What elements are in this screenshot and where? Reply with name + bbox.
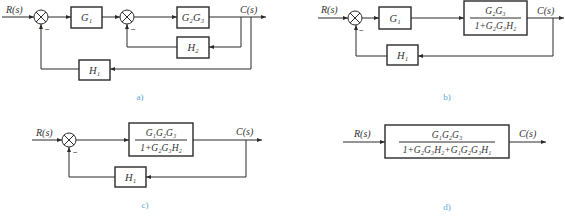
input-label-r: R(s) [35,127,53,139]
block-diagram-reduction-figure: R(s) − G₁ − G₂G₃ C(s) H₂ [0,0,565,220]
caption-b: b) [443,92,451,102]
input-label-r: R(s) [320,4,338,16]
block-g1-label: G₁ [81,12,92,23]
block-h1: H₁ [79,60,110,80]
block-g1: G₁ [379,7,411,29]
block-h1-label: H₁ [396,50,408,61]
block-g2g3-label: G₂G₃ [182,12,205,23]
output-label-c: C(s) [236,126,254,138]
caption-c: c) [142,200,149,210]
block-g1: G₁ [71,7,102,28]
block-inner-loop: G₂G₃ 1+G₂G₃H₂ [464,1,527,35]
block-denominator: 1+G₂G₃H₂ [475,21,517,31]
summing-junction-2 [120,10,134,24]
block-closed-loop-tf: G₁G₂G₃ 1+G₂G₃H₂+G₁G₂G₃H₁ [385,125,509,158]
input-label-r: R(s) [353,128,371,140]
block-h1-label: H₁ [124,172,136,183]
output-label-c: C(s) [519,128,537,140]
summing-junction [62,133,76,147]
diagram-c: R(s) − G₁G₂G₃ 1+G₂G₃H₂ C(s) H₁ c) [32,123,262,210]
feedback-path-h2-in [209,17,241,47]
block-h2-label: H₂ [186,42,199,53]
minus-sign: − [359,26,364,35]
diagram-b: R(s) − G₁ G₂G₃ 1+G₂G₃H₂ C(s) H₁ b) [318,1,564,102]
block-numerator: G₁G₂G₃ [432,130,463,140]
block-h1-label: H₁ [88,65,100,76]
block-numerator: G₂G₃ [485,6,505,16]
block-denominator: 1+G₂G₃H₂ [140,143,182,153]
caption-d: d) [443,202,451,212]
minus-sign-2: − [131,25,136,34]
diagram-d: R(s) G₁G₂G₃ 1+G₂G₃H₂+G₁G₂G₃H₁ C(s) d) [343,125,546,212]
minus-sign-1: − [45,25,50,34]
block-denominator: 1+G₂G₃H₂+G₁G₂G₃H₁ [403,145,492,155]
diagram-a: R(s) − G₁ − G₂G₃ C(s) H₂ [2,4,266,102]
block-numerator: G₁G₂G₃ [146,128,177,138]
input-label-r: R(s) [5,4,23,16]
block-h1: H₁ [387,45,418,65]
minus-sign: − [73,148,78,157]
block-g2g3: G₂G₃ [177,7,209,28]
output-label-c: C(s) [537,5,555,17]
block-h2: H₂ [177,37,209,58]
block-g1-label: G₁ [389,13,400,24]
block-h1: H₁ [115,167,146,187]
output-label-c: C(s) [240,4,258,16]
caption-a: a) [137,92,144,102]
summing-junction [348,11,362,25]
block-forward-path: G₁G₂G₃ 1+G₂G₃H₂ [129,123,193,156]
summing-junction-1 [34,10,48,24]
